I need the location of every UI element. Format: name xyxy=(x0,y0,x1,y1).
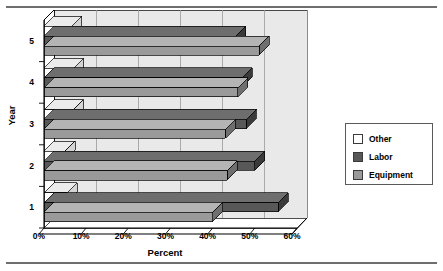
chart-figure: 0%10%20%30%40%50%60% 12345 Percent Year … xyxy=(0,0,443,271)
legend-item-other: Other xyxy=(353,130,432,148)
legend-item-equipment: Equipment xyxy=(353,166,432,184)
x-tick-60: 60% xyxy=(275,231,309,241)
x-axis-title: Percent xyxy=(0,247,330,258)
chart-legend: Other Labor Equipment xyxy=(345,123,433,185)
x-tick-40: 40% xyxy=(191,231,225,241)
y-tick-2: 2 xyxy=(22,161,34,171)
y-tick-1: 1 xyxy=(22,202,34,212)
y-tick-4: 4 xyxy=(22,77,34,87)
legend-swatch-labor xyxy=(353,152,363,162)
y-axis-title: Year xyxy=(6,93,17,139)
y-tick-3: 3 xyxy=(22,119,34,129)
x-tick-30: 30% xyxy=(149,231,183,241)
legend-swatch-equipment xyxy=(353,170,363,180)
legend-label-equipment: Equipment xyxy=(369,171,413,180)
x-tick-20: 20% xyxy=(106,231,140,241)
x-tick-0: 0% xyxy=(22,231,56,241)
legend-label-other: Other xyxy=(369,135,392,144)
y-tick-5: 5 xyxy=(22,36,34,46)
legend-item-labor: Labor xyxy=(353,148,432,166)
legend-label-labor: Labor xyxy=(369,153,393,162)
x-tick-10: 10% xyxy=(64,231,98,241)
legend-swatch-other xyxy=(353,134,363,144)
x-tick-50: 50% xyxy=(233,231,267,241)
